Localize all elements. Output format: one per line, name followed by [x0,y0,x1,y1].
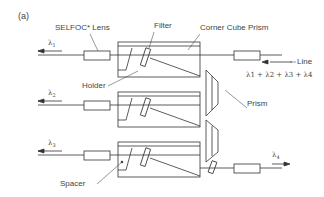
panel-label: (a) [18,12,29,21]
selfoc-lens-label: SELFOC* Lens [55,24,110,32]
module-3-selfoc-lens [84,151,110,160]
module-3-arrow-icon [38,149,44,153]
module-1-reflected-beam [150,58,200,76]
module-1-spacer [118,48,132,70]
module-2 [38,92,200,127]
prism-label: Prism [247,100,267,108]
input-arrow-icon [262,60,268,64]
lambda4-selfoc-lens [234,164,260,173]
module-3 [38,142,200,177]
filter-label: Filter [154,22,172,30]
lambda4-label: λ4 [272,152,280,160]
line-label: Line [297,58,312,66]
input-line [200,51,292,64]
module-2-arrow-icon [38,99,44,103]
output-lambda4 [200,161,290,174]
module-2-selfoc-lens [84,101,110,110]
lambda4-filter [208,161,217,174]
lambda4-arrow-icon [284,162,290,166]
lambda2-label: λ2 [48,90,56,98]
lambda1-label: λ1 [48,40,56,48]
spacer-label: Spacer [60,180,85,188]
input-selfoc-lens [234,51,260,60]
corner-cube-prism-label: Corner Cube Prism [200,24,268,32]
combined-wavelengths-label: λ1 + λ2 + λ3 + λ4 [246,72,313,79]
module-1-selfoc-lens [84,51,110,60]
module-1-filter [140,48,150,67]
lambda3-label: λ3 [48,140,56,148]
module-1 [38,42,200,77]
prisms [206,70,218,162]
holder-label: Holder [82,82,106,90]
module-1-arrow-icon [38,49,44,53]
